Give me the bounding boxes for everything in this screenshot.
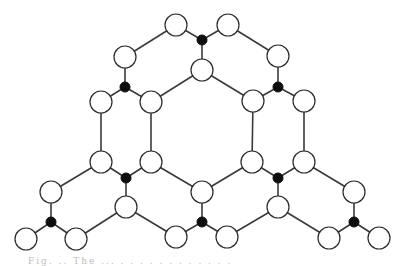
white-node	[343, 181, 365, 203]
white-node	[267, 45, 289, 67]
white-node	[90, 91, 112, 113]
white-node	[65, 228, 87, 250]
white-node	[293, 90, 315, 112]
black-node	[197, 35, 207, 45]
white-node	[140, 91, 162, 113]
white-node	[90, 151, 112, 173]
white-node	[191, 181, 213, 203]
white-node	[140, 151, 162, 173]
figure-caption-partial: Fig. .. The ... . . . . . . . . . . . .	[28, 256, 232, 266]
black-node	[121, 173, 131, 183]
edge-layer	[26, 25, 379, 239]
white-node	[267, 196, 289, 218]
white-node	[241, 151, 263, 173]
white-node	[115, 196, 137, 218]
white-node	[165, 226, 187, 248]
white-node	[191, 59, 213, 81]
white-node	[15, 228, 37, 250]
black-node	[273, 173, 283, 183]
white-node	[40, 181, 62, 203]
white-node	[217, 14, 239, 36]
black-node	[273, 82, 283, 92]
white-node	[114, 46, 136, 68]
white-node	[165, 14, 187, 36]
black-node	[197, 217, 207, 227]
white-node	[368, 227, 390, 249]
white-node	[216, 226, 238, 248]
black-node	[349, 217, 359, 227]
black-node	[46, 217, 56, 227]
black-node	[120, 82, 130, 92]
white-node	[293, 151, 315, 173]
white-node	[242, 90, 264, 112]
white-node	[318, 227, 340, 249]
